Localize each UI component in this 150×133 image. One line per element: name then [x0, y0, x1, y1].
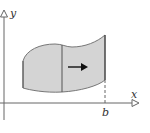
x-axis-label: x	[131, 88, 138, 101]
diagram-canvas: y x b	[0, 0, 150, 133]
y-axis-arrowhead-icon	[1, 10, 8, 17]
shaded-region	[23, 35, 105, 92]
b-tick-label: b	[102, 106, 109, 119]
y-axis-label: y	[9, 7, 17, 20]
